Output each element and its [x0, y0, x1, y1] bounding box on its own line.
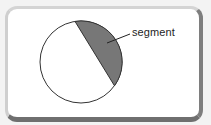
circle-segment-diagram	[0, 0, 211, 125]
segment-label: segment	[132, 26, 175, 39]
